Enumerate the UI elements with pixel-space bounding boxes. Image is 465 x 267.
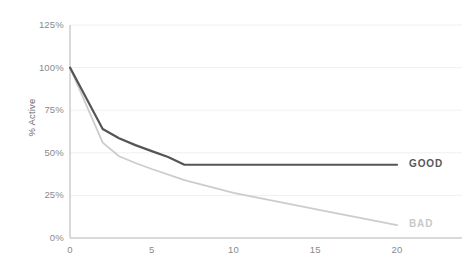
axis-lines	[70, 25, 462, 238]
y-tick-label: 25%	[22, 189, 64, 200]
y-tick-label: 75%	[22, 104, 64, 115]
y-tick-label: 125%	[22, 19, 64, 30]
series-label-bad: BAD	[409, 218, 433, 229]
chart-container: % Active 0%25%50%75%100%125% 05101520 GO…	[0, 0, 465, 267]
x-tick-label: 15	[300, 244, 330, 255]
series-line-good	[70, 68, 397, 165]
y-axis-title: % Active	[26, 78, 37, 158]
x-tick-label: 5	[137, 244, 167, 255]
y-tick-label: 0%	[22, 232, 64, 243]
y-tick-label: 100%	[22, 62, 64, 73]
gridlines	[70, 25, 462, 195]
x-tick-label: 10	[219, 244, 249, 255]
x-tick-label: 20	[382, 244, 412, 255]
y-tick-label: 50%	[22, 147, 64, 158]
series-label-good: GOOD	[409, 158, 443, 169]
x-tick-label: 0	[55, 244, 85, 255]
series-line-bad	[70, 68, 397, 226]
series-lines	[70, 68, 397, 226]
chart-plot-area	[0, 0, 465, 267]
